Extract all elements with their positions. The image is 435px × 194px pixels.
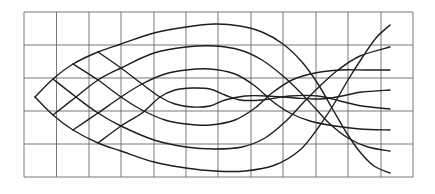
lower-arc-4-curve (98, 52, 390, 107)
background-grid (24, 12, 413, 177)
curve-family (35, 24, 390, 173)
lower-arc-2-curve (53, 47, 390, 149)
diagram-svg (0, 0, 435, 194)
upper-arc-2-curve (53, 46, 390, 151)
diagram-canvas (0, 0, 435, 194)
